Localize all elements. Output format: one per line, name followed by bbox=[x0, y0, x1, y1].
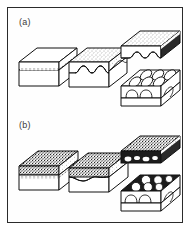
block-a-stage-3-lower-block bbox=[118, 66, 183, 112]
panel-label-b: (b) bbox=[19, 120, 31, 130]
panel-label-a: (a) bbox=[19, 17, 31, 27]
block-b-stage-3-lower-block bbox=[118, 170, 183, 218]
figure-border-frame: (a) (b) bbox=[7, 7, 183, 223]
